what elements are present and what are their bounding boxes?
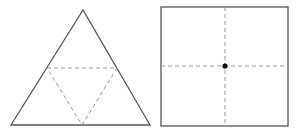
square-figure [161,7,288,126]
triangle-figure [11,10,150,125]
inner-dashed-triangle [47,68,117,125]
diagram-canvas [0,0,296,133]
square-center-dot [222,63,227,68]
triangle-outline [11,10,150,125]
geometry-figures [0,0,296,133]
